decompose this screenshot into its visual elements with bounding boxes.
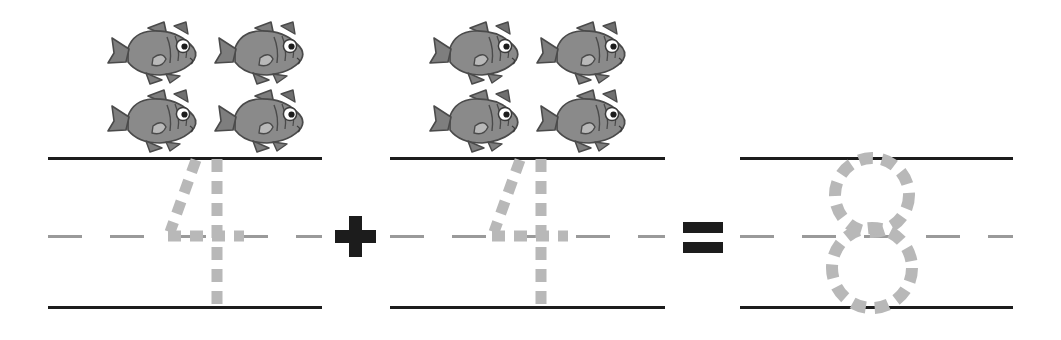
plus-sign-icon — [335, 216, 376, 257]
fish-group-addend-2 — [426, 18, 636, 154]
traceable-numeral-four[interactable] — [148, 152, 258, 317]
traceable-numeral-eight[interactable] — [808, 150, 938, 320]
fish-icon — [104, 18, 207, 86]
equation-term-sum — [740, 0, 1013, 340]
fish-icon — [426, 86, 529, 154]
equation-term-addend-2 — [390, 0, 665, 340]
equals-sign-icon — [683, 222, 723, 253]
fish-group-addend-1 — [104, 18, 314, 154]
equation-term-addend-1 — [48, 0, 322, 340]
fish-icon — [426, 18, 529, 86]
fish-icon — [533, 18, 636, 86]
fish-icon — [533, 86, 636, 154]
fish-icon — [211, 86, 314, 154]
worksheet-canvas — [0, 0, 1061, 340]
fish-icon — [211, 18, 314, 86]
traceable-numeral-four[interactable] — [472, 152, 582, 317]
fish-icon — [104, 86, 207, 154]
